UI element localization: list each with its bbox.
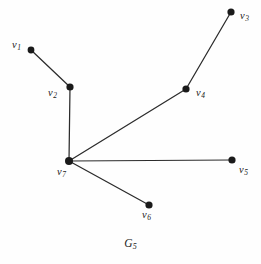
vertex-v5 bbox=[228, 156, 235, 163]
figure-caption: G5 bbox=[0, 238, 261, 251]
edge-v2-v7 bbox=[69, 87, 70, 161]
caption-base: G bbox=[124, 237, 132, 249]
vertex-label-v3: v3 bbox=[240, 11, 249, 23]
vertex-label-sub-v6: 6 bbox=[147, 213, 151, 222]
edge-v4-v7 bbox=[69, 89, 186, 161]
edge-v7-v6 bbox=[69, 161, 149, 205]
graph-canvas bbox=[0, 0, 261, 264]
vertex-label-sub-v3: 3 bbox=[245, 14, 249, 23]
edge-v7-v5 bbox=[69, 160, 232, 161]
vertex-label-sub-v5: 5 bbox=[244, 168, 248, 177]
graph-figure: v1v2v3v4v5v6v7 G5 bbox=[0, 0, 261, 264]
vertex-label-v1: v1 bbox=[12, 40, 21, 52]
vertex-label-v4: v4 bbox=[196, 88, 205, 100]
vertex-v4 bbox=[182, 85, 189, 92]
vertex-v1 bbox=[28, 47, 35, 54]
vertex-v7 bbox=[65, 157, 73, 165]
vertex-v3 bbox=[227, 8, 234, 15]
vertex-label-sub-v4: 4 bbox=[201, 91, 205, 100]
vertex-v6 bbox=[145, 201, 152, 208]
vertex-label-v6: v6 bbox=[142, 210, 151, 222]
vertex-label-sub-v7: 7 bbox=[62, 170, 66, 179]
edge-v1-v2 bbox=[31, 50, 70, 87]
vertex-v2 bbox=[66, 83, 73, 90]
caption-subscript: 5 bbox=[133, 242, 137, 251]
vertex-label-v7: v7 bbox=[57, 167, 66, 179]
vertex-label-sub-v2: 2 bbox=[53, 91, 57, 100]
vertex-label-sub-v1: 1 bbox=[17, 43, 21, 52]
vertex-label-v2: v2 bbox=[48, 88, 57, 100]
vertex-label-v5: v5 bbox=[239, 165, 248, 177]
edge-v3-v4 bbox=[186, 12, 231, 89]
